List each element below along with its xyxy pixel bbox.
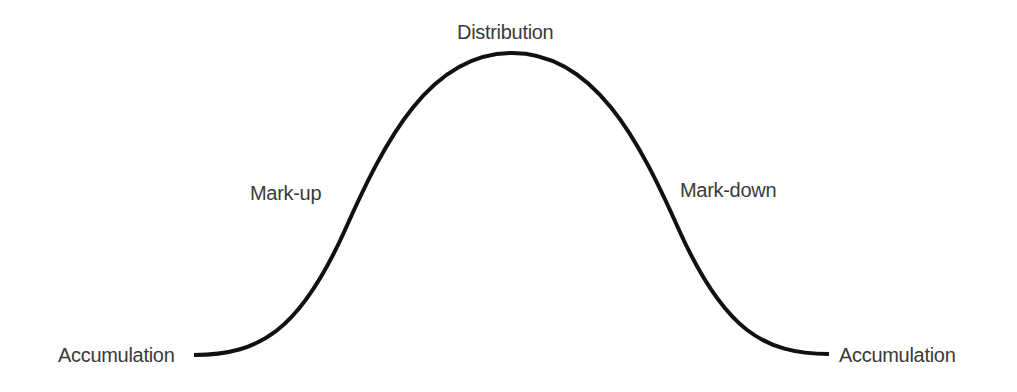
label-mark-up: Mark-up bbox=[250, 183, 321, 203]
label-mark-down: Mark-down bbox=[680, 180, 776, 200]
label-accumulation-end: Accumulation bbox=[839, 345, 955, 365]
market-cycle-curve-canvas bbox=[0, 0, 1017, 392]
label-distribution: Distribution bbox=[457, 22, 553, 42]
label-accumulation-start: Accumulation bbox=[58, 345, 174, 365]
bell-curve bbox=[194, 53, 829, 355]
